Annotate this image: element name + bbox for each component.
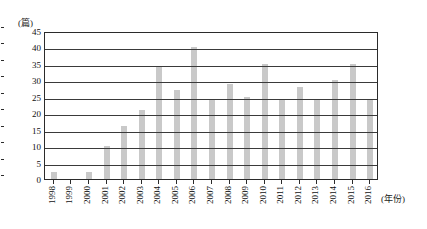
y-axis-tick-mark	[1, 109, 4, 110]
gridline	[45, 165, 377, 166]
x-axis-tick-label: 2014	[329, 186, 338, 204]
y-axis-tick-mark	[1, 27, 4, 28]
x-axis-tick-mark	[88, 180, 89, 184]
gridline	[45, 115, 377, 116]
x-axis-tick-mark	[176, 180, 177, 184]
bar	[244, 97, 250, 179]
bar	[209, 100, 215, 179]
y-axis-tick-mark	[1, 159, 4, 160]
gridline	[45, 132, 377, 133]
y-axis-tick-label: 45	[4, 27, 44, 37]
x-axis-tick-label: 2001	[101, 186, 110, 204]
x-axis-tick-label: 2010	[259, 186, 268, 204]
x-axis-tick-mark	[123, 180, 124, 184]
bar	[279, 100, 285, 179]
bar	[139, 110, 145, 179]
plot-area	[44, 32, 378, 180]
x-axis-tick-mark	[334, 180, 335, 184]
gridline	[45, 148, 377, 149]
x-axis-tick-label: 2008	[224, 186, 233, 204]
x-axis-unit-label: (年份)	[381, 192, 405, 205]
x-axis-tick-label: 2000	[83, 186, 92, 204]
gridline	[45, 99, 377, 100]
y-axis-tick-mark	[1, 126, 4, 127]
x-axis-tick-label: 2012	[294, 186, 303, 204]
bar	[51, 172, 57, 179]
x-axis-tick-mark	[106, 180, 107, 184]
gridline	[45, 49, 377, 50]
y-axis-tick-label: 35	[4, 60, 44, 70]
x-axis-tick-label: 2015	[347, 186, 356, 204]
x-axis-tick-mark	[193, 180, 194, 184]
gridline	[45, 66, 377, 67]
bar	[367, 100, 373, 179]
y-axis-tick-label: 5	[4, 159, 44, 169]
y-axis-tick-mark	[1, 175, 4, 176]
x-axis-tick-mark	[281, 180, 282, 184]
bar	[191, 47, 197, 179]
x-axis-tick-mark	[264, 180, 265, 184]
x-axis-tick-label: 1998	[48, 186, 57, 204]
y-axis-tick-mark	[1, 76, 4, 77]
y-axis-tick-label: 30	[4, 76, 44, 86]
x-axis-tick-mark	[211, 180, 212, 184]
chart-figure: (篇) 051015202530354045 19981999200020012…	[0, 0, 427, 229]
bar	[86, 172, 92, 179]
y-axis-tick-mark	[1, 43, 4, 44]
x-axis-tick-mark	[316, 180, 317, 184]
y-axis-tick-mark	[1, 142, 4, 143]
y-axis-tick-label: 10	[4, 142, 44, 152]
x-axis-tick-mark	[246, 180, 247, 184]
bar	[262, 64, 268, 179]
y-axis-tick-label: 0	[4, 175, 44, 185]
x-axis-tick-label: 2005	[171, 186, 180, 204]
y-axis-tick-label: 40	[4, 43, 44, 53]
x-axis-tick-label: 2007	[206, 186, 215, 204]
bar	[121, 126, 127, 179]
gridline	[45, 82, 377, 83]
bar	[350, 64, 356, 179]
bar	[104, 146, 110, 179]
x-axis-tick-mark	[70, 180, 71, 184]
bar	[174, 90, 180, 179]
x-axis-tick-mark	[158, 180, 159, 184]
x-axis-tick-mark	[229, 180, 230, 184]
y-axis-tick-mark	[1, 60, 4, 61]
x-axis-tick-mark	[53, 180, 54, 184]
x-axis-tick-label: 2009	[241, 186, 250, 204]
x-axis-tick-label: 2016	[364, 186, 373, 204]
x-axis-tick-label: 2003	[136, 186, 145, 204]
y-axis-tick-label: 25	[4, 93, 44, 103]
x-axis-tick-label: 1999	[65, 186, 74, 204]
y-axis-tick-label: 20	[4, 109, 44, 119]
x-axis-tick-label: 2004	[153, 186, 162, 204]
bar	[156, 67, 162, 179]
bar	[314, 100, 320, 179]
x-axis-tick-label: 2006	[188, 186, 197, 204]
x-axis-tick-mark	[299, 180, 300, 184]
x-axis-tick-mark	[352, 180, 353, 184]
x-axis-tick-mark	[141, 180, 142, 184]
x-axis-tick-label: 2013	[311, 186, 320, 204]
y-axis-tick-mark	[1, 93, 4, 94]
bar-series	[45, 33, 377, 179]
x-axis-tick-mark	[369, 180, 370, 184]
x-axis-tick-label: 2002	[118, 186, 127, 204]
y-axis-tick-label: 15	[4, 126, 44, 136]
x-axis-tick-label: 2011	[276, 186, 285, 204]
